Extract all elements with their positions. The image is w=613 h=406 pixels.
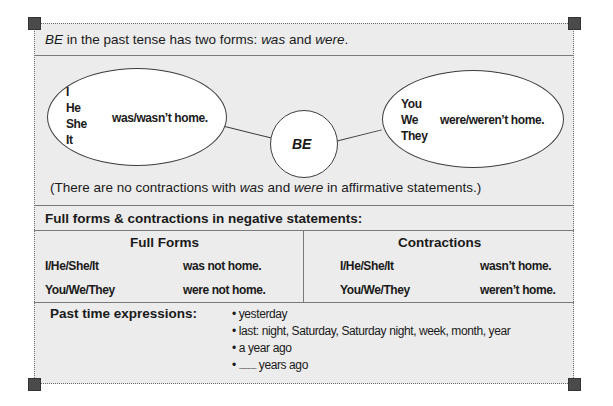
- contr-row-1-subject: I/He/She/It: [340, 258, 394, 274]
- divider-table-bottom: [34, 302, 574, 303]
- bullet: •: [232, 324, 236, 338]
- pronoun-i: I: [66, 84, 69, 100]
- note-were: were: [294, 180, 323, 195]
- note-text: (There are no contractions with was and …: [50, 180, 481, 196]
- bullet: •: [232, 307, 236, 321]
- pronoun-he: He: [66, 100, 81, 116]
- note-end: in affirmative statements.): [323, 180, 481, 195]
- verb-was-wasnt: was/wasn’t home.: [112, 110, 208, 126]
- past-time-label: Past time expressions:: [50, 306, 197, 322]
- bullet: •: [232, 358, 236, 372]
- center-label-be: BE: [292, 136, 311, 152]
- full-row-2-subject: You/We/They: [45, 282, 115, 298]
- full-row-1-subject: I/He/She/It: [45, 258, 99, 274]
- contr-row-2-subject: You/We/They: [340, 282, 410, 298]
- divider-note: [34, 205, 574, 206]
- contr-row-2-verb: weren’t home.: [480, 282, 555, 298]
- past-time-item-1: • yesterday: [232, 306, 287, 322]
- full-row-1-verb: was not home.: [183, 258, 261, 274]
- contractions-title: Contractions: [398, 235, 481, 251]
- intro-text-end: .: [344, 32, 348, 47]
- intro-text-mid: in the past tense has two forms:: [63, 32, 261, 47]
- note-start: (There are no contractions with: [50, 180, 240, 195]
- pronoun-we: We: [401, 112, 418, 128]
- pronoun-you: You: [401, 96, 422, 112]
- intro-text-and: and: [285, 32, 315, 47]
- intro-form-was: was: [261, 32, 285, 47]
- corner-marker-top-left: [28, 17, 41, 30]
- note-was: was: [240, 180, 264, 195]
- note-mid: and: [264, 180, 294, 195]
- divider-table-top: [34, 230, 574, 231]
- intro-text: BE in the past tense has two forms: was …: [45, 32, 348, 48]
- pronoun-she: She: [66, 116, 87, 132]
- bullet: •: [232, 341, 236, 355]
- verb-were-werent: were/weren’t home.: [440, 112, 544, 128]
- contr-row-1-verb: wasn’t home.: [480, 258, 551, 274]
- past-time-item-2: • last: night, Saturday, Saturday night,…: [232, 323, 510, 339]
- past-time-item-4: • .............. years ago: [232, 357, 308, 375]
- corner-marker-top-right: [568, 17, 581, 30]
- full-forms-title: Full Forms: [130, 235, 199, 251]
- corner-marker-bottom-left: [28, 378, 41, 391]
- pronoun-it: It: [66, 132, 73, 148]
- negative-heading: Full forms & contractions in negative st…: [45, 211, 362, 227]
- intro-form-were: were: [315, 32, 344, 47]
- pronoun-they: They: [401, 128, 427, 144]
- divider-table-middle: [303, 230, 304, 302]
- full-row-2-verb: were not home.: [183, 282, 265, 298]
- past-time-item-3: • a year ago: [232, 340, 291, 356]
- corner-marker-bottom-right: [568, 378, 581, 391]
- divider-intro: [34, 55, 574, 56]
- intro-subject: BE: [45, 32, 63, 47]
- blank-fill: ..............: [239, 362, 256, 371]
